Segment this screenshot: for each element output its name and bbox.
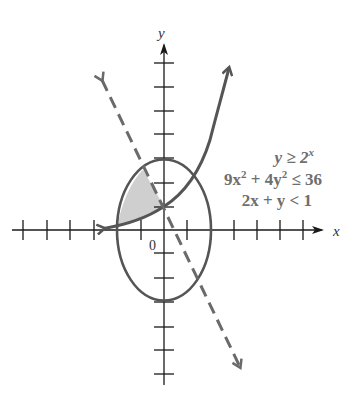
- y-axis: [154, 45, 174, 385]
- ellipse-bound: ≤ 36: [287, 170, 322, 189]
- inequality-exponential: y ≥ 2x: [273, 146, 315, 167]
- inequality-exponential-base: y ≥ 2: [273, 148, 309, 167]
- inequality-line: 2x + y < 1: [242, 191, 312, 210]
- origin-label: 0: [149, 238, 156, 253]
- x-axis-label: x: [332, 223, 340, 239]
- x-axis: [12, 220, 322, 240]
- ellipse-term-y: + 4y: [246, 170, 282, 189]
- y-axis-label: y: [156, 25, 165, 41]
- inequality-system-graph: y x 0 y ≥ 2x 9x2 + 4y2 ≤ 36 2x + y < 1: [0, 0, 351, 403]
- ellipse-term-x: 9x: [224, 170, 242, 189]
- inequality-ellipse: 9x2 + 4y2 ≤ 36: [224, 168, 322, 189]
- exponential-curve: [104, 68, 229, 228]
- inequality-exponential-power: x: [308, 146, 315, 158]
